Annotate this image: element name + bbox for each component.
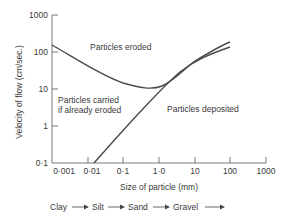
x-tick-labels: 0·001 0·01 0·1 1·0 10 100 1000 <box>53 166 276 176</box>
svg-text:1000: 1000 <box>257 166 276 176</box>
eroded-annotation: Particles eroded <box>90 42 152 52</box>
y-tick-labels: 1000 100 10 1 0·1 <box>29 10 48 168</box>
svg-text:100: 100 <box>223 166 237 176</box>
arrow-icon <box>120 205 125 210</box>
arrow-icon <box>165 205 170 210</box>
svg-text:1000: 1000 <box>29 10 48 20</box>
arrow-icon <box>84 205 89 210</box>
svg-text:Silt: Silt <box>92 202 104 212</box>
svg-text:10: 10 <box>190 166 200 176</box>
x-axis-label: Size of particle (mm) <box>120 182 198 192</box>
svg-text:1: 1 <box>43 121 48 131</box>
svg-text:10: 10 <box>39 84 49 94</box>
svg-text:Clay: Clay <box>50 202 68 212</box>
svg-text:0·01: 0·01 <box>83 166 100 176</box>
arrow-icon <box>220 205 225 210</box>
svg-text:100: 100 <box>34 47 48 57</box>
svg-text:1·0: 1·0 <box>153 166 166 176</box>
carried-annotation-2: if already eroded <box>58 105 122 115</box>
carried-annotation-1: Particles carried <box>58 95 119 105</box>
svg-text:Gravel: Gravel <box>173 202 198 212</box>
svg-text:0·1: 0·1 <box>36 158 49 168</box>
axes <box>52 15 266 163</box>
y-axis-label: Velocity of flow (cm/sec.) <box>14 45 24 139</box>
svg-text:0·1: 0·1 <box>117 166 130 176</box>
size-sequence: Clay Silt Sand Gravel <box>50 202 225 212</box>
svg-text:0·001: 0·001 <box>53 166 75 176</box>
deposited-annotation: Particles deposited <box>167 104 239 114</box>
hjulstrom-chart: 1000 100 10 1 0·1 0·001 0·01 0·1 1·0 10 … <box>0 0 289 221</box>
svg-text:Sand: Sand <box>128 202 148 212</box>
